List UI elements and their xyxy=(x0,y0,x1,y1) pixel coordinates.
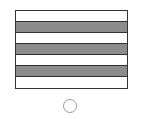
stripe xyxy=(16,22,127,33)
stripe xyxy=(16,44,127,55)
stripe xyxy=(16,66,127,77)
stripe xyxy=(16,11,127,22)
radio-button[interactable] xyxy=(63,99,77,113)
stripe xyxy=(16,77,127,88)
striped-rectangle-figure xyxy=(15,10,128,89)
stripe xyxy=(16,33,127,44)
stripe xyxy=(16,55,127,66)
